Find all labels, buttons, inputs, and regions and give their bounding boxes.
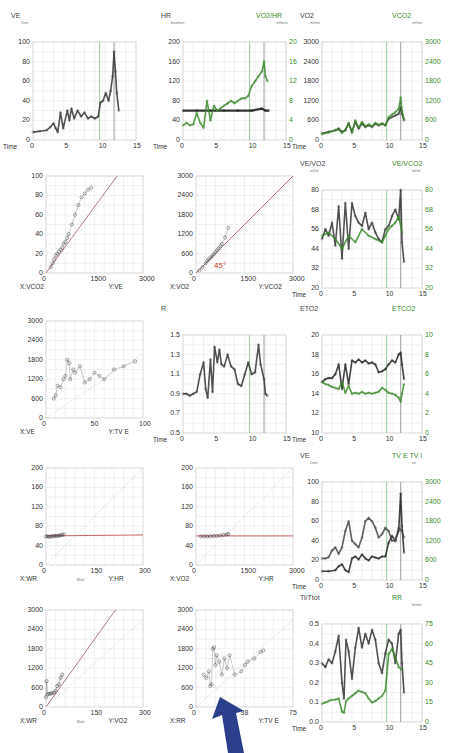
y2-tick-label: 8 bbox=[425, 351, 429, 358]
y2-tick-label: 2400 bbox=[425, 58, 441, 65]
y-tick-label: 200 bbox=[168, 38, 180, 45]
x-tick-label: 300 bbox=[139, 567, 151, 574]
y-tick-label: 12 bbox=[311, 409, 319, 416]
chart-panel-p42: 04080120160200015003000X:VO2Y:HR bbox=[150, 440, 300, 580]
series-label-right: TV E TV I bbox=[392, 452, 422, 459]
y-tick-label: 1800 bbox=[27, 356, 43, 363]
x-tick-label: 1500 bbox=[241, 275, 257, 282]
y-tick-label: 60 bbox=[311, 517, 319, 524]
x-axis-label: X:VO2 bbox=[170, 283, 189, 290]
chart-panel-p31: 06001200180024003000050100X:VEY:TV E bbox=[0, 293, 150, 433]
y2-tick-label: 1200 bbox=[425, 97, 441, 104]
y-tick-label: 20 bbox=[311, 284, 319, 291]
y-tick-label: 60 bbox=[22, 77, 30, 84]
x-axis-label: X:WR bbox=[20, 717, 37, 724]
y-tick-label: 0.3 bbox=[309, 659, 319, 666]
y-tick-label: 120 bbox=[168, 77, 180, 84]
y-axis-label: Y:TV E bbox=[259, 717, 279, 724]
y-tick-label: 20 bbox=[311, 556, 319, 563]
y-tick-label: 0.4 bbox=[309, 640, 319, 647]
x-axis-label: X:RR bbox=[170, 717, 186, 724]
unit-label-right: ml/min bbox=[412, 21, 422, 25]
y-tick-label: 1200 bbox=[27, 375, 43, 382]
unit-label-right: br/min bbox=[412, 603, 422, 607]
y-tick-label: 20 bbox=[35, 250, 43, 257]
x-tick-label: 100 bbox=[139, 420, 151, 427]
y2-tick-label: 68 bbox=[425, 206, 433, 213]
y-tick-label: 1.1 bbox=[170, 370, 180, 377]
y-tick-label: 80 bbox=[311, 186, 319, 193]
y-tick-label: 56 bbox=[311, 225, 319, 232]
y-tick-label: 0.1 bbox=[309, 698, 319, 705]
plot-area bbox=[0, 148, 150, 298]
y-axis-label: Y:TV E bbox=[109, 428, 129, 435]
y-tick-label: 2400 bbox=[303, 58, 319, 65]
y-tick-label: 3000 bbox=[177, 172, 193, 179]
plot-area bbox=[300, 582, 450, 732]
y-axis-label: Y:VO2 bbox=[109, 717, 128, 724]
y-tick-label: 44 bbox=[311, 245, 319, 252]
unit-label-left: beat/min bbox=[171, 21, 184, 25]
chart-panel-p51: 060012001800240030000150300X:WRY:VO2Watt bbox=[0, 582, 150, 722]
y-tick-label: 2400 bbox=[27, 336, 43, 343]
unit-label-left: ml/min bbox=[310, 21, 320, 25]
series-label-left: VO2 bbox=[300, 12, 314, 19]
y-axis-label: Y:VCO2 bbox=[259, 283, 282, 290]
y2-tick-label: 1200 bbox=[425, 537, 441, 544]
y2-tick-label: 32 bbox=[425, 264, 433, 271]
chart-panel-p43: VEl/minTV E TV Iml0204060801000600120018… bbox=[300, 440, 450, 580]
y2-tick-label: 15 bbox=[425, 698, 433, 705]
y-tick-label: 16 bbox=[311, 370, 319, 377]
y2-tick-label: 4 bbox=[289, 116, 293, 123]
y-tick-label: 20 bbox=[22, 116, 30, 123]
chart-panel-p13: VO2ml/minVCO2ml/min060012001800240030000… bbox=[300, 0, 450, 140]
chart-panel-p53: Ti/TtotRRbr/min0.00.10.20.30.40.50153045… bbox=[300, 582, 450, 722]
y-tick-label: 120 bbox=[31, 503, 43, 510]
y-tick-label: 600 bbox=[31, 684, 43, 691]
plot-area bbox=[300, 440, 450, 590]
x-tick-label: 150 bbox=[91, 709, 103, 716]
y-tick-label: 40 bbox=[35, 542, 43, 549]
y2-tick-label: 3000 bbox=[425, 478, 441, 485]
y-axis-label: Y:HR bbox=[109, 575, 124, 582]
y-tick-label: 3000 bbox=[177, 606, 193, 613]
blue-arrow-annotation bbox=[210, 697, 250, 753]
y2-tick-label: 45 bbox=[425, 659, 433, 666]
y-tick-label: 0.2 bbox=[309, 679, 319, 686]
y-tick-label: 2400 bbox=[177, 625, 193, 632]
y-tick-label: 0.5 bbox=[309, 620, 319, 627]
y2-tick-label: 10 bbox=[425, 331, 433, 338]
y-tick-label: 0.9 bbox=[170, 390, 180, 397]
y-tick-label: 3000 bbox=[303, 38, 319, 45]
x-tick-label: 300 bbox=[139, 709, 151, 716]
x-axis-label: X:WR bbox=[20, 575, 37, 582]
y-tick-label: 600 bbox=[307, 116, 319, 123]
series-label-left: Ti/Ttot bbox=[300, 594, 320, 601]
series-label-left: VE bbox=[11, 12, 20, 19]
y-tick-label: 14 bbox=[311, 390, 319, 397]
plot-area bbox=[150, 440, 300, 590]
y-tick-label: 160 bbox=[168, 58, 180, 65]
chart-panel-p33: ETO2ETCO21012141618200246810051015Time bbox=[300, 293, 450, 433]
y2-tick-label: 60 bbox=[425, 640, 433, 647]
y-tick-label: 1.3 bbox=[170, 351, 180, 358]
y-tick-label: 100 bbox=[18, 38, 30, 45]
x-axis-label: X:VE bbox=[20, 428, 35, 435]
y-tick-label: 1800 bbox=[177, 645, 193, 652]
y2-tick-label: 30 bbox=[425, 679, 433, 686]
x-axis-label: X:VCO2 bbox=[20, 283, 44, 290]
series-label-left: HR bbox=[161, 12, 171, 19]
x-tick-label: 10 bbox=[386, 724, 394, 731]
series-label-left: R bbox=[161, 305, 166, 312]
y-axis-label: Y:HR bbox=[259, 575, 274, 582]
chart-panel-p21: 020406080100015003000X:VCO2Y:VE bbox=[0, 148, 150, 288]
y2-tick-label: 56 bbox=[425, 225, 433, 232]
y-tick-label: 20 bbox=[311, 331, 319, 338]
unit-label-right: ml/beat bbox=[276, 21, 287, 25]
series-label-right: ETCO2 bbox=[392, 305, 415, 312]
y-tick-label: 1200 bbox=[303, 97, 319, 104]
y-tick-label: 1200 bbox=[177, 664, 193, 671]
y-tick-label: 600 bbox=[181, 250, 193, 257]
unit-label-left: ml/ml bbox=[310, 169, 318, 173]
x-tick-label: 0 bbox=[42, 567, 46, 574]
